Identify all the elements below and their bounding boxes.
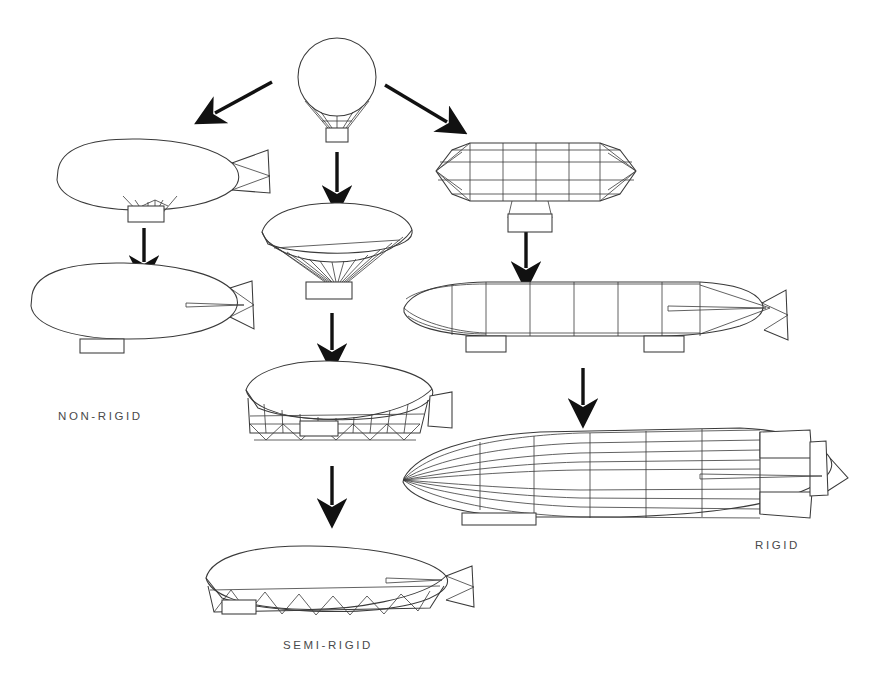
semirigid-stage-2 <box>246 361 452 440</box>
nonrigid-stage-2 <box>31 263 254 353</box>
label-rigid: RIGID <box>755 539 800 551</box>
label-semi-rigid: SEMI-RIGID <box>283 639 373 651</box>
arrow-balloon-to-rigid <box>385 85 447 122</box>
arrow-balloon-to-nonrigid <box>215 82 272 113</box>
label-non-rigid: NON-RIGID <box>58 410 143 422</box>
semirigid-stage-1 <box>262 203 412 299</box>
rigid-stage-3 <box>403 428 848 525</box>
semirigid-stage-3 <box>206 546 474 615</box>
balloon-figure <box>298 38 376 142</box>
nonrigid-stage-1 <box>57 139 270 222</box>
rigid-stage-2 <box>404 282 788 352</box>
airship-evolution-diagram: .ln{fill:none;stroke:#3a3a3a;stroke-widt… <box>0 0 888 675</box>
rigid-stage-1 <box>436 143 636 232</box>
